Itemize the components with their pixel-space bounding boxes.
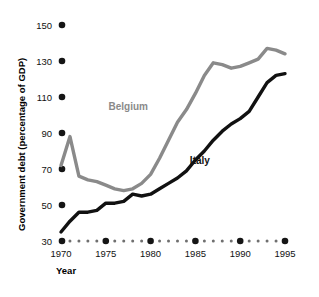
y-axis-tick-dot bbox=[59, 94, 66, 101]
x-axis-tick-dot-minor bbox=[113, 240, 116, 243]
y-axis-tick-label: 90 bbox=[41, 128, 52, 139]
series-label-belgium: Belgium bbox=[108, 101, 148, 112]
x-axis-tick-dot-minor bbox=[203, 240, 206, 243]
x-axis-tick-label: 1985 bbox=[185, 248, 206, 259]
y-axis-tick-dot bbox=[59, 202, 66, 209]
y-axis-tick-dot bbox=[59, 58, 66, 65]
y-axis-tick-dot bbox=[59, 22, 66, 29]
series-line-belgium bbox=[61, 48, 285, 190]
y-axis-title: Government debt (percentage of GDP) bbox=[16, 58, 27, 231]
x-axis-tick-dot-major bbox=[147, 238, 154, 245]
x-axis-tick-dot-minor bbox=[266, 240, 269, 243]
x-axis-tick-dot-minor bbox=[131, 240, 134, 243]
x-axis-tick-dot-minor bbox=[212, 240, 215, 243]
x-axis-tick-dot-minor bbox=[68, 240, 71, 243]
x-axis-tick-dot-major bbox=[192, 238, 199, 245]
x-axis-tick-dot-major bbox=[237, 238, 244, 245]
x-axis-tick-dot-minor bbox=[185, 240, 188, 243]
x-axis-tick-dot-minor bbox=[140, 240, 143, 243]
x-axis-tick-dot-major bbox=[282, 238, 289, 245]
series-label-italy: Italy bbox=[190, 155, 210, 166]
y-axis-tick-label: 150 bbox=[36, 20, 52, 31]
x-axis-tick-dot-minor bbox=[86, 240, 89, 243]
y-axis-tick-dot bbox=[59, 130, 66, 137]
x-axis-tick-dot-minor bbox=[248, 240, 251, 243]
series-line-italy bbox=[61, 74, 285, 232]
x-axis-tick-dot-minor bbox=[158, 240, 161, 243]
x-axis-tick-dot-minor bbox=[221, 240, 224, 243]
chart-container: 3050709011013015019701975198019851990199… bbox=[0, 0, 319, 297]
x-axis-title: Year bbox=[56, 265, 76, 276]
x-axis-tick-dot-minor bbox=[176, 240, 179, 243]
y-axis-tick-label: 110 bbox=[37, 92, 52, 103]
y-axis-tick-label: 130 bbox=[36, 56, 52, 67]
x-axis-tick-dot-minor bbox=[77, 240, 80, 243]
x-axis-tick-dot-minor bbox=[122, 240, 125, 243]
x-axis-tick-dot-minor bbox=[167, 240, 170, 243]
y-axis-tick-label: 30 bbox=[41, 236, 52, 247]
x-axis-tick-label: 1995 bbox=[274, 248, 295, 259]
line-chart-svg: 3050709011013015019701975198019851990199… bbox=[0, 0, 319, 297]
x-axis-tick-label: 1970 bbox=[50, 248, 71, 259]
y-axis-tick-dot bbox=[59, 238, 66, 245]
x-axis-tick-dot-minor bbox=[257, 240, 260, 243]
y-axis-tick-label: 70 bbox=[41, 164, 52, 175]
x-axis-tick-label: 1990 bbox=[230, 248, 251, 259]
x-axis-tick-dot-major bbox=[103, 238, 110, 245]
y-axis-tick-label: 50 bbox=[41, 200, 52, 211]
x-axis-tick-label: 1975 bbox=[95, 248, 116, 259]
x-axis-tick-label: 1980 bbox=[140, 248, 161, 259]
x-axis-tick-dot-minor bbox=[95, 240, 98, 243]
x-axis-tick-dot-minor bbox=[275, 240, 278, 243]
x-axis-tick-dot-minor bbox=[230, 240, 233, 243]
